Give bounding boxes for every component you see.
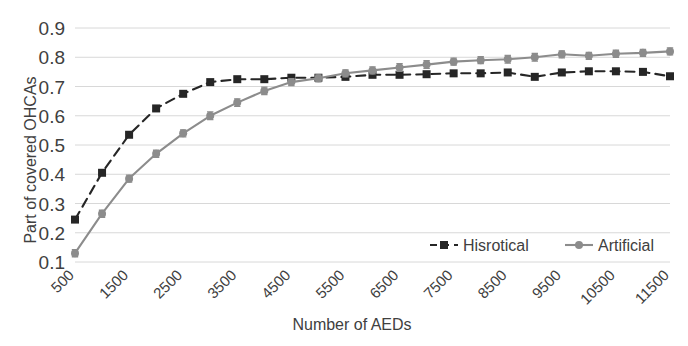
- y-tick-label: 0.5: [39, 135, 65, 156]
- data-point-marker: [612, 50, 620, 58]
- y-tick-label: 0.3: [39, 194, 65, 215]
- data-point-marker: [179, 129, 187, 137]
- data-point-marker: [423, 70, 431, 78]
- data-point-marker: [152, 150, 160, 158]
- data-point-marker: [585, 52, 593, 60]
- y-tick-label: 0.2: [39, 223, 65, 244]
- data-point-marker: [369, 66, 377, 74]
- data-point-marker: [612, 67, 620, 75]
- data-point-marker: [206, 112, 214, 120]
- data-point-marker: [666, 72, 674, 80]
- data-point-marker: [179, 90, 187, 98]
- y-tick-label: 0.6: [39, 106, 65, 127]
- data-point-marker: [639, 49, 647, 57]
- data-point-marker: [206, 78, 214, 86]
- y-tick-label: 0.8: [39, 47, 65, 68]
- legend-label-hisrotical: Hisrotical: [463, 237, 529, 254]
- data-point-marker: [504, 55, 512, 63]
- data-point-marker: [314, 74, 322, 82]
- data-point-marker: [341, 69, 349, 77]
- data-point-marker: [639, 68, 647, 76]
- y-tick-label: 0.7: [39, 77, 65, 98]
- legend-marker-artificial: [575, 241, 583, 249]
- data-point-marker: [287, 78, 295, 86]
- data-point-marker: [260, 75, 268, 83]
- data-point-marker: [585, 67, 593, 75]
- data-point-marker: [423, 61, 431, 69]
- chart-container: 0.90.80.70.60.50.40.30.20.1 500150025003…: [0, 0, 688, 346]
- data-point-marker: [71, 216, 79, 224]
- data-point-marker: [396, 71, 404, 79]
- data-point-marker: [531, 53, 539, 61]
- data-point-marker: [531, 73, 539, 81]
- y-tick-label: 0.4: [39, 164, 66, 185]
- data-point-marker: [396, 63, 404, 71]
- data-point-marker: [233, 75, 241, 83]
- y-tick-label: 0.9: [39, 18, 65, 39]
- data-point-marker: [558, 50, 566, 58]
- data-point-marker: [260, 87, 268, 95]
- data-point-marker: [450, 69, 458, 77]
- y-tick-label-group: 0.90.80.70.60.50.40.30.20.1: [39, 18, 66, 273]
- data-point-marker: [233, 99, 241, 107]
- data-point-marker: [71, 249, 79, 257]
- data-point-marker: [558, 68, 566, 76]
- data-point-marker: [450, 58, 458, 66]
- legend-label-artificial: Artificial: [598, 237, 654, 254]
- data-point-marker: [98, 210, 106, 218]
- y-axis-title: Part of covered OHCAs: [22, 76, 39, 243]
- data-point-marker: [98, 169, 106, 177]
- line-chart: 0.90.80.70.60.50.40.30.20.1 500150025003…: [0, 0, 688, 346]
- legend-marker-hisrotical: [440, 241, 448, 249]
- data-point-marker: [666, 47, 674, 55]
- data-point-marker: [125, 175, 133, 183]
- data-point-marker: [477, 56, 485, 64]
- data-point-marker: [125, 131, 133, 139]
- data-point-marker: [504, 68, 512, 76]
- data-point-marker: [477, 69, 485, 77]
- data-point-marker: [152, 104, 160, 112]
- x-axis-title: Number of AEDs: [292, 316, 411, 333]
